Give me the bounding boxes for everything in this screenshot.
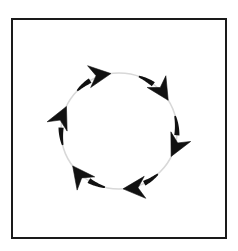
outer-frame	[12, 19, 226, 238]
circular-arrow-diagram: top arrowupper-right arrowlower-right ar…	[0, 0, 238, 251]
figure-canvas: top arrowupper-right arrowlower-right ar…	[0, 0, 238, 251]
